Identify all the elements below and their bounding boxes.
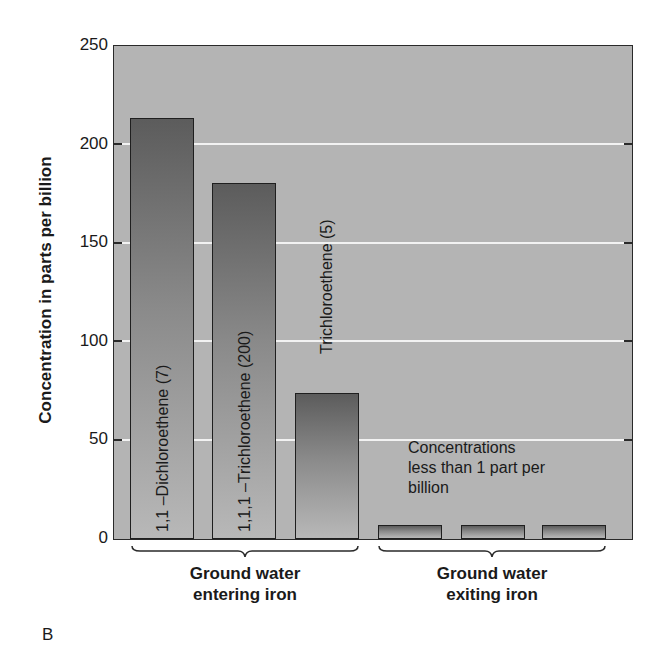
tick-left-100 [114,340,122,342]
group-entering-line-2: entering iron [160,584,330,605]
group-label-exiting: Ground water exiting iron [407,563,577,605]
y-axis-label: Concentration in parts per billion [36,110,60,470]
brace-entering [130,544,360,562]
bar-exiting-1 [378,525,442,539]
tick-right-50 [624,439,632,441]
bar-trichloroethene [295,393,359,539]
tick-left-200 [114,143,122,145]
bar-label-111-trichloroethene: 1,1,1 –Trichloroethene (200) [236,331,254,532]
annotation-less-than-1-ppb: Concentrations less than 1 part per bill… [408,438,545,498]
panel-label: B [42,625,53,645]
annotation-line-3: billion [408,478,545,498]
y-tick-50: 50 [58,429,108,449]
brace-exiting [377,544,607,562]
y-tick-0: 0 [58,528,108,548]
bar-exiting-2 [461,525,525,539]
tick-left-150 [114,242,122,244]
bar-exiting-3 [542,525,606,539]
y-tick-250: 250 [58,35,108,55]
bar-label-trichloroethene: Trichloroethene (5) [318,219,336,354]
bar-label-dichloroethene: 1,1 –Dichloroethene (7) [154,365,172,532]
tick-right-200 [624,143,632,145]
y-tick-200: 200 [58,134,108,154]
group-exiting-line-1: Ground water [407,563,577,584]
y-tick-150: 150 [58,232,108,252]
annotation-line-2: less than 1 part per [408,458,545,478]
group-label-entering: Ground water entering iron [160,563,330,605]
annotation-line-1: Concentrations [408,438,545,458]
tick-left-50 [114,439,122,441]
tick-right-150 [624,242,632,244]
group-entering-line-1: Ground water [160,563,330,584]
y-tick-100: 100 [58,331,108,351]
tick-right-100 [624,340,632,342]
group-exiting-line-2: exiting iron [407,584,577,605]
plot-area: 1,1 –Dichloroethene (7) 1,1,1 –Trichloro… [113,45,633,540]
